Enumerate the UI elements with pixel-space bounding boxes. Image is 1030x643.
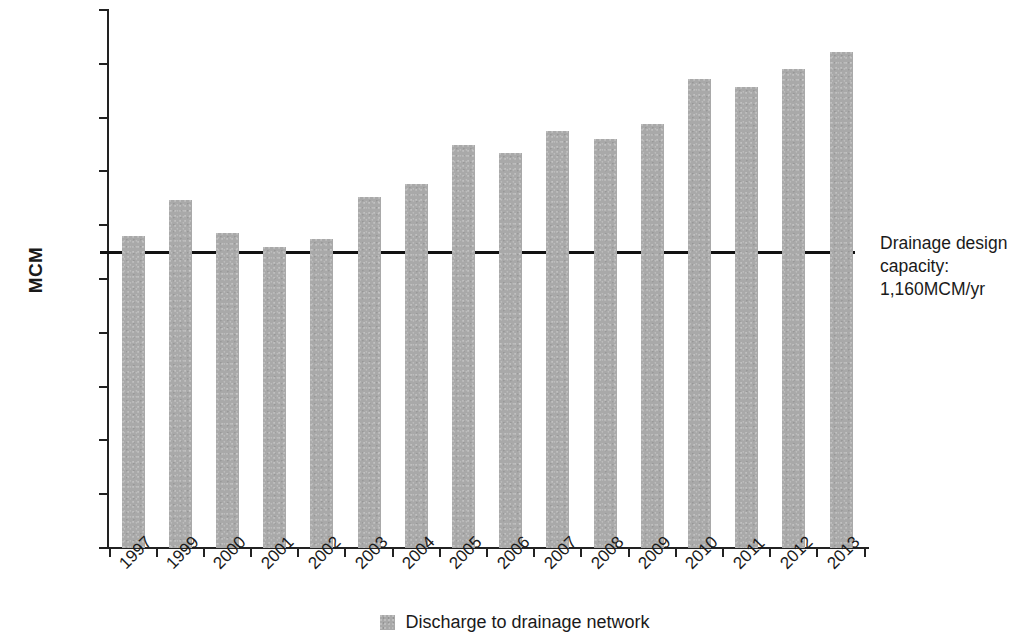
- capacity-annotation-line3: 1,160MCM/yr: [880, 278, 1030, 301]
- legend-label-discharge: Discharge to drainage network: [405, 613, 649, 631]
- x-axis-tick: [628, 548, 630, 557]
- capacity-annotation: Drainage design capacity: 1,160MCM/yr: [880, 232, 1030, 301]
- x-axis-tick: [580, 548, 582, 557]
- legend-swatch-discharge: [380, 615, 395, 630]
- y-axis-tick: [99, 439, 108, 441]
- x-axis-tick: [533, 548, 535, 557]
- bar: [688, 79, 711, 548]
- capacity-annotation-line1: Drainage design: [880, 232, 1030, 255]
- x-axis-tick: [816, 548, 818, 557]
- x-axis-tick: [392, 548, 394, 557]
- plot-area: 02004006008001,0001,2001,4001,6001,8002,…: [108, 10, 868, 548]
- x-axis-tick: [344, 548, 346, 557]
- bar: [452, 145, 475, 549]
- y-axis-tick: [99, 493, 108, 495]
- bar: [830, 52, 853, 548]
- x-axis-tick: [675, 548, 677, 557]
- y-axis-tick: [99, 63, 108, 65]
- bar: [122, 236, 145, 548]
- bar: [641, 124, 664, 548]
- bar: [782, 69, 805, 548]
- bar: [735, 87, 758, 548]
- x-axis-tick: [156, 548, 158, 557]
- bar: [263, 247, 286, 548]
- bar: [169, 200, 192, 548]
- x-axis-tick: [250, 548, 252, 557]
- y-axis-tick: [99, 386, 108, 388]
- bar: [216, 233, 239, 548]
- y-axis-tick: [99, 278, 108, 280]
- y-axis-tick: [99, 332, 108, 334]
- chart-legend: Discharge to drainage network: [0, 613, 1030, 631]
- x-axis-tick: [722, 548, 724, 557]
- y-axis-tick: [99, 170, 108, 172]
- bar: [310, 239, 333, 548]
- x-axis-tick: [486, 548, 488, 557]
- bar: [358, 197, 381, 548]
- chart-figure: MCM 02004006008001,0001,2001,4001,6001,8…: [0, 0, 1030, 643]
- x-axis-tick: [864, 548, 866, 557]
- bar: [546, 131, 569, 548]
- x-axis-tick: [203, 548, 205, 557]
- y-axis-tick: [99, 117, 108, 119]
- x-axis-tick: [439, 548, 441, 557]
- bar: [499, 153, 522, 548]
- y-axis-tick: [99, 224, 108, 226]
- x-axis-tick: [297, 548, 299, 557]
- bar: [594, 139, 617, 548]
- x-axis-tick: [109, 548, 111, 557]
- x-axis-tick: [769, 548, 771, 557]
- y-axis-tick: [99, 9, 108, 11]
- bar: [405, 184, 428, 548]
- capacity-annotation-line2: capacity:: [880, 255, 1030, 278]
- y-axis-title: MCM: [25, 225, 47, 315]
- y-axis-tick: [99, 547, 108, 549]
